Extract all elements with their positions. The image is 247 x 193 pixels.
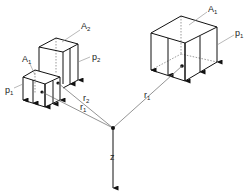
origin-point: [111, 126, 115, 130]
radius-r1-left: [42, 92, 113, 128]
left-tall-load-box: [39, 30, 90, 88]
coordinate-system: [42, 66, 182, 188]
radius-r2: [58, 83, 113, 128]
label-p2: p2: [92, 52, 101, 63]
label-A1-right: A1: [208, 4, 218, 15]
label-r1-right: r1: [144, 90, 151, 101]
label-A1-left: A1: [22, 54, 32, 65]
left-low-load-box: [14, 64, 60, 107]
load-diagram: A1 p1 A2 p2 A1 p1: [0, 0, 247, 193]
label-A2: A2: [81, 21, 91, 32]
label-r2: r2: [83, 93, 90, 104]
label-p1-right: p1: [235, 28, 244, 39]
label-p1-left: p1: [5, 85, 14, 96]
label-z-axis: z: [110, 152, 115, 162]
right-load-box: [151, 12, 234, 81]
